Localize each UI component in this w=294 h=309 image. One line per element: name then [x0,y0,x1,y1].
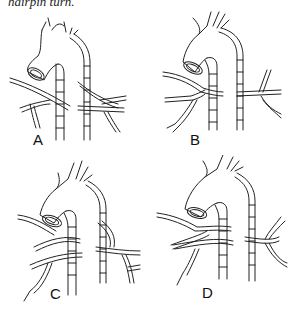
panel-c: C [0,155,147,309]
panel-label-a: A [33,131,43,148]
panel-a: A [0,0,147,154]
panel-b: B [147,0,294,154]
aortic-arch-diagram-b [147,0,294,154]
panel-d: D [147,155,294,309]
panel-label-d: D [202,284,213,301]
panel-label-b: B [190,131,200,148]
aortic-arch-diagram-a [0,0,147,154]
panel-label-c: C [50,285,61,302]
aortic-arch-diagram-d [147,155,294,309]
aortic-arch-diagram-c [0,155,147,309]
